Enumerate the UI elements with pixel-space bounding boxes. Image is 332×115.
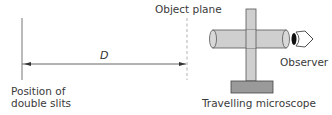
microscope-base xyxy=(231,81,273,93)
observer-label: Observer xyxy=(280,56,328,68)
tube-right-end xyxy=(283,30,290,48)
tube-left-end xyxy=(210,30,217,48)
microscope-post-front xyxy=(246,30,256,48)
object-plane-label: Object plane xyxy=(155,3,222,15)
slits-label-line1: Position of xyxy=(11,85,65,97)
microscope-label: Travelling microscope xyxy=(202,97,316,109)
distance-label: D xyxy=(100,49,108,62)
arrowhead-right-icon xyxy=(179,62,186,66)
slits-label-line2: double slits xyxy=(11,97,71,109)
arrowhead-left-icon xyxy=(24,62,31,66)
eye-icon xyxy=(292,31,314,47)
